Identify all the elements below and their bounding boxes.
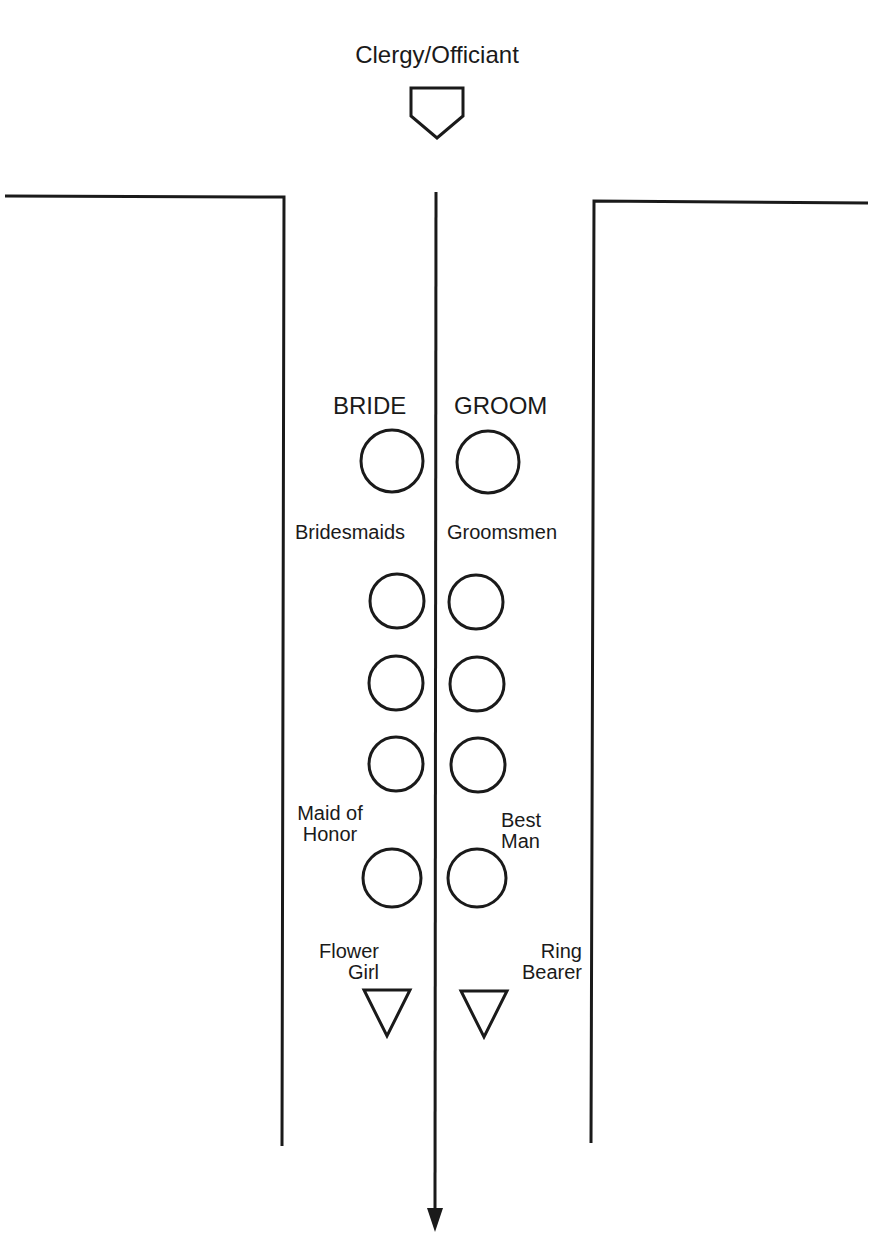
flower-girl-line-1: Flower bbox=[295, 941, 379, 962]
maid-of-honor-circle-icon bbox=[363, 849, 421, 907]
groom-circle-icon bbox=[457, 431, 519, 493]
flower-girl-triangle-icon bbox=[364, 990, 410, 1036]
best-man-line-2: Man bbox=[501, 831, 541, 852]
bridesmaid-1-circle-icon bbox=[370, 574, 424, 628]
bridesmaid-3-circle-icon bbox=[369, 737, 423, 791]
bridesmaid-2-circle-icon bbox=[369, 656, 423, 710]
groom-label: GROOM bbox=[454, 393, 547, 418]
right-wall-line bbox=[591, 201, 868, 1143]
left-wall-line bbox=[5, 196, 284, 1146]
aisle-arrow-down-icon bbox=[427, 1208, 443, 1232]
maid-of-honor-label: Maid of Honor bbox=[290, 803, 370, 845]
ring-bearer-line-2: Bearer bbox=[500, 962, 582, 983]
best-man-circle-icon bbox=[448, 849, 506, 907]
ring-bearer-line-1: Ring bbox=[500, 941, 582, 962]
groomsmen-label: Groomsmen bbox=[447, 522, 557, 543]
best-man-line-1: Best bbox=[501, 810, 541, 831]
bride-label: BRIDE bbox=[333, 393, 406, 418]
groomsman-1-circle-icon bbox=[449, 575, 503, 629]
best-man-label: Best Man bbox=[501, 810, 541, 852]
maid-of-honor-line-2: Honor bbox=[290, 824, 370, 845]
ring-bearer-triangle-icon bbox=[461, 991, 507, 1037]
ring-bearer-label: Ring Bearer bbox=[500, 941, 582, 983]
bride-circle-icon bbox=[361, 430, 423, 492]
groomsman-3-circle-icon bbox=[451, 738, 505, 792]
aisle-center-line bbox=[435, 192, 436, 1212]
flower-girl-label: Flower Girl bbox=[295, 941, 379, 983]
flower-girl-line-2: Girl bbox=[295, 962, 379, 983]
ceremony-layout-diagram bbox=[0, 0, 894, 1242]
bridesmaids-label: Bridesmaids bbox=[295, 522, 405, 543]
officiant-label: Clergy/Officiant bbox=[0, 42, 874, 67]
groomsman-2-circle-icon bbox=[450, 657, 504, 711]
officiant-marker-icon bbox=[411, 88, 463, 138]
maid-of-honor-line-1: Maid of bbox=[290, 803, 370, 824]
